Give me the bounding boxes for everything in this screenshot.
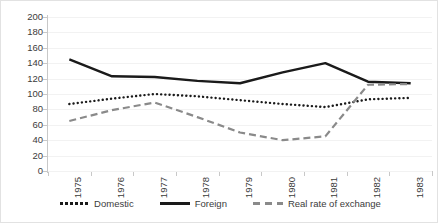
plot-area [48, 17, 432, 171]
y-axis-tick-mark [43, 63, 47, 64]
x-axis-tick-label: 1980 [287, 177, 297, 198]
x-axis-tick-label: 1983 [415, 177, 425, 198]
legend-item-real-rate-of-exchange[interactable]: Real rate of exchange [253, 199, 381, 209]
dashed-line-swatch [253, 202, 283, 205]
x-axis-tick-mark [304, 172, 305, 176]
x-axis-tick-mark [432, 172, 433, 176]
x-axis-tick-label: 1981 [329, 177, 339, 198]
legend-item-label: Domestic [94, 199, 134, 209]
gridline [48, 171, 432, 172]
series-line-foreign [69, 59, 410, 83]
series-line-real-rate-of-exchange [69, 84, 410, 140]
series-lines [48, 17, 432, 171]
x-axis-tick-mark [347, 172, 348, 176]
y-axis-tick-mark [43, 32, 47, 33]
y-axis-tick-label: 200 [3, 12, 43, 22]
x-axis-tick-label: 1978 [201, 177, 211, 198]
x-axis-tick-mark [133, 172, 134, 176]
legend-item-domestic[interactable]: Domestic [59, 199, 134, 209]
legend-item-label: Foreign [195, 199, 227, 209]
y-axis-tick-mark [43, 140, 47, 141]
y-axis-tick-label: 0 [3, 166, 43, 176]
y-axis-tick-mark [43, 94, 47, 95]
y-axis-tick-mark [43, 48, 47, 49]
x-axis-tick-mark [261, 172, 262, 176]
chart-legend: DomesticForeignReal rate of exchange [1, 199, 438, 209]
y-axis-tick-label: 20 [3, 151, 43, 161]
x-axis-tick-mark [48, 172, 49, 176]
x-axis-tick-label: 1975 [73, 177, 83, 198]
y-axis-tick-labels: 020406080100120140160180200 [1, 17, 43, 171]
y-axis-tick-mark [43, 17, 47, 18]
y-axis-tick-label: 40 [3, 135, 43, 145]
x-axis-tick-mark [176, 172, 177, 176]
y-axis-tick-mark [43, 109, 47, 110]
series-line-domestic [69, 94, 410, 107]
y-axis-tick-mark [43, 171, 47, 172]
y-axis-tick-label: 140 [3, 58, 43, 68]
y-axis-tick-mark [43, 156, 47, 157]
legend-item-foreign[interactable]: Foreign [160, 199, 227, 209]
x-axis-tick-label: 1982 [372, 177, 382, 198]
y-axis-tick-label: 160 [3, 43, 43, 53]
x-axis-tick-label: 1979 [244, 177, 254, 198]
x-axis-tick-mark [91, 172, 92, 176]
legend-item-label: Real rate of exchange [288, 199, 381, 209]
y-axis-tick-label: 100 [3, 89, 43, 99]
x-axis-tick-label: 1977 [159, 177, 169, 198]
line-chart: 020406080100120140160180200 197519761977… [0, 0, 438, 223]
y-axis-tick-label: 180 [3, 28, 43, 38]
solid-line-swatch [160, 202, 190, 205]
x-axis-tick-mark [219, 172, 220, 176]
x-axis-tick-mark [389, 172, 390, 176]
y-axis-tick-mark [43, 125, 47, 126]
y-axis-tick-mark [43, 79, 47, 80]
y-axis-tick-label: 80 [3, 105, 43, 115]
y-axis-tick-label: 60 [3, 120, 43, 130]
y-axis-tick-label: 120 [3, 74, 43, 84]
dotted-line-swatch [59, 202, 89, 205]
x-axis-tick-label: 1976 [116, 177, 126, 198]
